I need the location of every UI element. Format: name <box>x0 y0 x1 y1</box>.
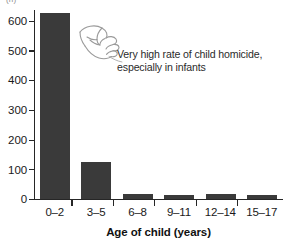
bar-15-17[interactable] <box>247 195 277 199</box>
annotation-line-1: Very high rate of child homicide, <box>117 48 285 61</box>
bar-3-5[interactable] <box>81 162 111 199</box>
y-tick-label-300: 300 <box>8 104 27 116</box>
annotation-line-2: especially in infants <box>117 61 285 74</box>
x-category-label-5: 15–17 <box>241 206 282 218</box>
y-tick-label-0: 0 <box>21 193 27 205</box>
bar-9-11[interactable] <box>164 195 194 199</box>
y-tick-label-500: 500 <box>8 45 27 57</box>
y-tick-label-100: 100 <box>8 164 27 176</box>
x-axis-title: Age of child (years) <box>34 226 283 238</box>
bar-chart: (n) 600 500 400 300 200 100 0 0– <box>0 0 287 243</box>
bar-6-8[interactable] <box>123 194 153 199</box>
y-tick-0 <box>29 199 35 200</box>
x-category-label-0: 0–2 <box>34 206 75 218</box>
y-axis-title-clipped: (n) <box>6 0 16 4</box>
x-category-label-1: 3–5 <box>75 206 116 218</box>
bars-layer <box>34 9 283 199</box>
x-category-label-2: 6–8 <box>117 206 158 218</box>
bar-0-2[interactable] <box>40 13 70 199</box>
annotation-high-rate: Very high rate of child homicide, especi… <box>117 48 285 73</box>
y-tick-label-400: 400 <box>8 74 27 86</box>
x-category-label-3: 9–11 <box>158 206 199 218</box>
x-category-label-4: 12–14 <box>200 206 241 218</box>
bar-12-14[interactable] <box>206 194 236 199</box>
y-tick-label-200: 200 <box>8 134 27 146</box>
y-tick-label-600: 600 <box>8 15 27 27</box>
